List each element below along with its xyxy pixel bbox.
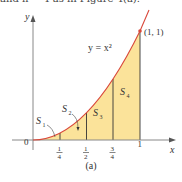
tick-1: 1 [138, 139, 143, 149]
strip-label-s1: S1 [36, 115, 46, 128]
point-1-1 [138, 29, 142, 33]
svg-text:4: 4 [127, 93, 130, 99]
x-axis-arrow-icon [169, 138, 176, 143]
svg-text:1: 1 [43, 122, 46, 128]
tick-1-4: 14 [57, 145, 63, 161]
origin-label: 0 [24, 137, 29, 147]
svg-text:2: 2 [69, 110, 72, 116]
svg-text:S: S [62, 103, 67, 114]
y-axis-label: y [24, 11, 30, 22]
svg-text:S: S [36, 115, 41, 126]
svg-text:S: S [93, 107, 98, 118]
figure-caption: (a) [0, 160, 182, 171]
svg-text:S: S [120, 86, 125, 97]
point-label: (1, 1) [144, 27, 164, 37]
s1-pointer [47, 125, 55, 137]
figure-plot: y x 0 (1, 1) y = x² 14 12 34 1 S1 S2 S3 … [0, 0, 182, 182]
y-axis-arrow-icon [31, 15, 36, 22]
svg-text:1: 1 [58, 145, 62, 153]
strip-label-s2: S2 [62, 103, 72, 116]
tick-3-4: 34 [110, 145, 116, 161]
curve-label: y = x² [88, 42, 112, 53]
tick-1-2: 12 [83, 145, 89, 161]
svg-text:3: 3 [100, 114, 103, 120]
svg-text:3: 3 [111, 145, 115, 153]
svg-text:1: 1 [84, 145, 88, 153]
x-axis-label: x [169, 144, 175, 155]
